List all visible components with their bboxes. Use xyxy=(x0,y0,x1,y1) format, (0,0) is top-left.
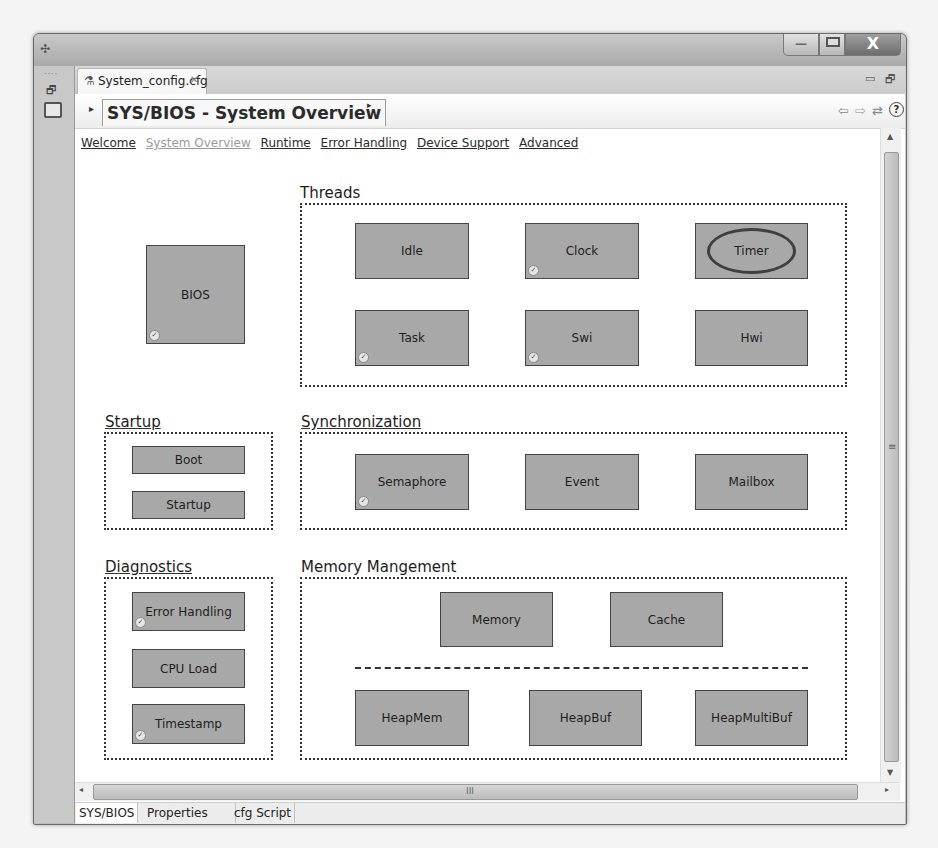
module-cpu-load[interactable]: CPU Load xyxy=(132,649,245,688)
vertical-scrollbar[interactable]: ▲ ≡ ▼ xyxy=(880,128,901,782)
editor-area: ⚗ System_config.cfg ✕ ▭ 🗗 ▸ SYS/BIOS - S… xyxy=(74,66,905,823)
close-icon: X xyxy=(846,34,900,53)
module-idle[interactable]: Idle xyxy=(355,223,469,279)
module-label: Cache xyxy=(648,613,685,627)
module-label: Clock xyxy=(566,244,599,258)
module-heapbuf[interactable]: HeapBuf xyxy=(529,690,642,746)
module-swi[interactable]: Swi ✓ xyxy=(525,310,639,366)
close-button[interactable]: X xyxy=(845,34,901,56)
module-label: BIOS xyxy=(181,288,210,302)
grip-icon: III xyxy=(466,786,474,796)
module-label: Memory xyxy=(472,613,521,627)
module-label: HeapBuf xyxy=(560,711,611,725)
link-runtime[interactable]: Runtime xyxy=(261,136,311,150)
link-device-support[interactable]: Device Support xyxy=(417,136,509,150)
tab-cfg-script[interactable]: cfg Script xyxy=(231,803,295,823)
scroll-up-icon[interactable]: ▲ xyxy=(887,132,893,141)
module-label: HeapMem xyxy=(382,711,443,725)
group-title-startup: Startup xyxy=(105,413,161,431)
editor-tab-bar: ⚗ System_config.cfg ✕ ▭ 🗗 xyxy=(75,66,905,95)
module-hwi[interactable]: Hwi xyxy=(695,310,808,366)
grip-icon: ≡ xyxy=(888,441,896,452)
group-title-synchronization: Synchronization xyxy=(301,413,421,431)
view-minimize-icon[interactable]: ▭ xyxy=(865,72,875,85)
minimize-icon: — xyxy=(784,37,818,51)
system-overview-diagram: BIOS ✓ Threads Idle Clock ✓ Timer Task ✓ xyxy=(75,154,880,782)
tab-properties[interactable]: Properties xyxy=(144,803,236,823)
link-welcome[interactable]: Welcome xyxy=(81,136,136,150)
module-heapmem[interactable]: HeapMem xyxy=(355,690,469,746)
group-title-memory: Memory Mangement xyxy=(301,558,456,576)
module-cache[interactable]: Cache xyxy=(610,592,723,647)
back-arrow-icon[interactable]: ⇦ xyxy=(838,103,849,118)
heap-separator xyxy=(355,667,808,669)
module-label: Idle xyxy=(401,244,423,258)
tab-sysbios[interactable]: SYS/BIOS xyxy=(76,803,138,823)
page-links: Welcome System Overview Runtime Error Ha… xyxy=(81,136,584,150)
link-system-overview[interactable]: System Overview xyxy=(146,136,251,150)
cfg-file-icon: ⚗ xyxy=(84,74,95,88)
restore-icon[interactable]: 🗗 xyxy=(46,82,56,101)
form-header: ▸ SYS/BIOS - System Overview ▸ ⇦ ⇨ ⇄ ? xyxy=(75,94,905,129)
expand-arrow-icon[interactable]: ▸ xyxy=(89,103,94,114)
module-startup[interactable]: Startup xyxy=(132,491,245,519)
module-mailbox[interactable]: Mailbox xyxy=(695,454,808,510)
help-icon[interactable]: ? xyxy=(889,102,904,117)
module-label: Event xyxy=(565,475,599,489)
module-error-handling[interactable]: Error Handling ✓ xyxy=(132,592,245,631)
module-timer[interactable]: Timer xyxy=(695,223,808,279)
module-label: Semaphore xyxy=(378,475,447,489)
drag-handle-icon[interactable]: ···· xyxy=(44,70,58,79)
module-label: Task xyxy=(399,331,425,345)
module-label: Startup xyxy=(166,498,211,512)
page-title: SYS/BIOS - System Overview xyxy=(102,99,386,126)
minimize-button[interactable]: — xyxy=(783,34,819,56)
module-timestamp[interactable]: Timestamp ✓ xyxy=(132,704,245,744)
maximize-button[interactable] xyxy=(819,34,845,56)
enabled-check-icon: ✓ xyxy=(528,352,539,363)
link-error-handling[interactable]: Error Handling xyxy=(321,136,408,150)
app-icon: ✣ xyxy=(40,42,54,56)
link-advanced[interactable]: Advanced xyxy=(519,136,578,150)
console-icon[interactable] xyxy=(44,102,62,118)
view-maximize-icon[interactable]: 🗗 xyxy=(885,71,895,90)
module-semaphore[interactable]: Semaphore ✓ xyxy=(355,454,469,510)
enabled-check-icon: ✓ xyxy=(135,617,146,628)
module-label: Boot xyxy=(175,453,203,467)
scroll-down-icon[interactable]: ▼ xyxy=(887,768,893,777)
module-label: Timestamp xyxy=(155,717,222,731)
scroll-left-icon[interactable]: ◂ xyxy=(79,785,83,794)
scroll-right-icon[interactable]: ▸ xyxy=(885,785,889,794)
module-boot[interactable]: Boot xyxy=(132,446,245,474)
title-bar[interactable]: ✣ — X xyxy=(34,34,906,66)
tab-close-icon[interactable]: ✕ xyxy=(190,74,198,85)
horizontal-scrollbar[interactable]: ◂ III ▸ xyxy=(75,782,900,801)
module-label: Mailbox xyxy=(728,475,774,489)
group-title-diagnostics: Diagnostics xyxy=(105,558,192,576)
module-heapmultibuf[interactable]: HeapMultiBuf xyxy=(695,690,808,746)
application-window: ✣ — X ···· 🗗 ⚗ System_config.cfg ✕ ▭ 🗗 ▸… xyxy=(33,33,907,825)
module-event[interactable]: Event xyxy=(525,454,639,510)
enabled-check-icon: ✓ xyxy=(358,496,369,507)
module-clock[interactable]: Clock ✓ xyxy=(525,223,639,279)
module-label: HeapMultiBuf xyxy=(711,711,792,725)
module-label: Hwi xyxy=(740,331,762,345)
horizontal-scroll-thumb[interactable]: III xyxy=(93,784,858,800)
module-label: Error Handling xyxy=(145,605,232,619)
enabled-check-icon: ✓ xyxy=(135,730,146,741)
breadcrumb-arrow-icon[interactable]: ▸ xyxy=(367,100,372,110)
module-label: Swi xyxy=(572,331,593,345)
editor-tab-system-config[interactable]: ⚗ System_config.cfg ✕ xyxy=(77,68,207,95)
module-bios[interactable]: BIOS ✓ xyxy=(146,245,245,344)
highlight-ellipse xyxy=(707,228,796,274)
enabled-check-icon: ✓ xyxy=(149,330,160,341)
enabled-check-icon: ✓ xyxy=(528,265,539,276)
sync-icon[interactable]: ⇄ xyxy=(872,103,883,118)
trim-stack: ···· 🗗 xyxy=(34,66,75,823)
vertical-scroll-thumb[interactable]: ≡ xyxy=(884,152,899,762)
maximize-icon xyxy=(826,37,840,47)
forward-arrow-icon[interactable]: ⇨ xyxy=(855,103,866,118)
module-task[interactable]: Task ✓ xyxy=(355,310,469,366)
enabled-check-icon: ✓ xyxy=(358,352,369,363)
module-memory[interactable]: Memory xyxy=(440,592,553,647)
